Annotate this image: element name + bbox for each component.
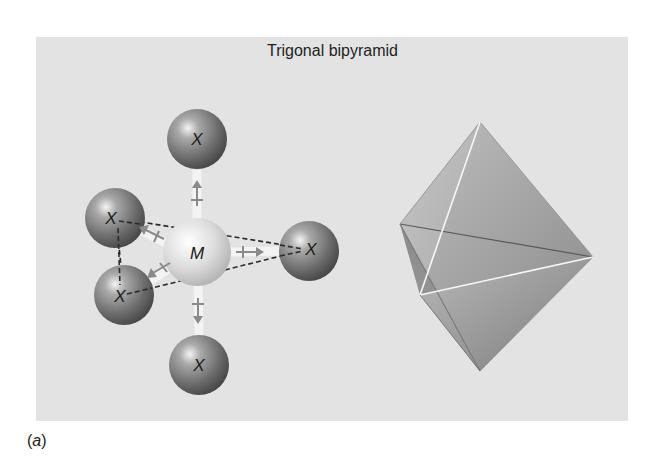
ligand-equatorial-lower-left: X xyxy=(94,265,154,325)
svg-text:X: X xyxy=(104,209,117,228)
ligand-equatorial-right: X xyxy=(279,221,339,281)
central-atom: M xyxy=(163,218,231,286)
ligand-axial-top: X xyxy=(167,109,227,169)
svg-text:X: X xyxy=(192,356,205,375)
ligand-axial-bottom: X xyxy=(169,335,229,395)
trigonal-bipyramid-polyhedron xyxy=(400,122,593,371)
svg-text:X: X xyxy=(190,130,203,149)
ligand-equatorial-upper-left: X xyxy=(85,188,145,248)
svg-text:M: M xyxy=(190,244,205,263)
svg-text:X: X xyxy=(304,240,317,259)
figure-caption: (a) xyxy=(27,432,47,450)
figure-canvas: X X X X X M xyxy=(0,0,655,458)
svg-text:X: X xyxy=(113,287,126,306)
